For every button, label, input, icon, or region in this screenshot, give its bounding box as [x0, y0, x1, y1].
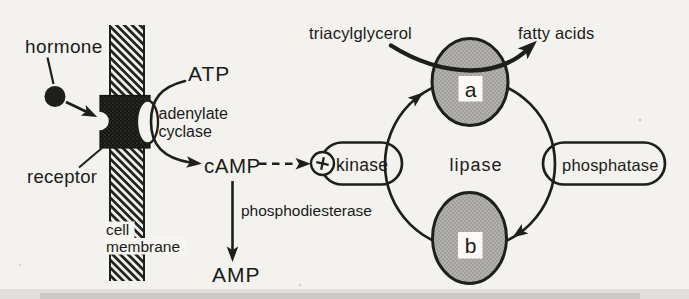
hormone-dot-icon [45, 86, 66, 107]
atp-label: ATP [188, 62, 230, 85]
amp-label: AMP [212, 263, 261, 286]
triacylglycerol-label: triacylglycerol [309, 24, 412, 42]
kinase-label: kinase [336, 155, 388, 175]
svg-text:membrane: membrane [106, 238, 180, 255]
diagram-canvas: a b hormone receptor cell membrane ATP a… [0, 0, 689, 299]
svg-text:cell: cell [106, 221, 129, 238]
svg-text:adenylate: adenylate [159, 105, 228, 122]
svg-text:cyclase: cyclase [159, 123, 212, 140]
adenylate-cyclase-bump [137, 101, 158, 144]
phosphatase-label: phosphatase [562, 156, 659, 174]
phosphodiesterase-label: phosphodiesterase [241, 202, 372, 219]
lipase-a-letter: a [465, 78, 477, 101]
fatty-acids-label: fatty acids [518, 24, 594, 42]
lipase-b-letter: b [465, 234, 477, 257]
pathway-diagram: a b hormone receptor cell membrane ATP a… [0, 0, 689, 299]
receptor-label: receptor [27, 166, 97, 187]
camp-label: cAMP [204, 154, 261, 177]
paper-background [0, 0, 689, 299]
lipase-label: lipase [449, 155, 502, 175]
activation-plus-icon [311, 152, 334, 175]
hormone-label: hormone [25, 36, 103, 57]
